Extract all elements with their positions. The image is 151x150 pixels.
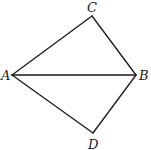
label-d: D xyxy=(87,137,99,150)
label-b: B xyxy=(138,68,149,83)
segment-ac xyxy=(12,16,92,75)
segment-ad xyxy=(12,75,93,133)
segment-db xyxy=(93,75,136,133)
label-a: A xyxy=(0,68,10,83)
segment-cb xyxy=(92,16,136,75)
label-c: C xyxy=(87,0,97,15)
geometry-diagram: A B C D xyxy=(0,0,151,150)
